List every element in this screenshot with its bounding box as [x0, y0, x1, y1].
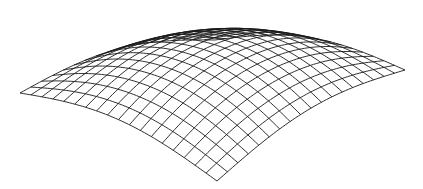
mesh-line-u — [31, 87, 228, 172]
mesh-line-u — [183, 29, 374, 80]
mesh-line-u — [139, 32, 332, 97]
wireframe-surface-figure — [0, 0, 423, 189]
surface-mesh-lines — [20, 28, 405, 181]
mesh-line-u — [42, 81, 238, 163]
mesh-line-v — [97, 29, 289, 111]
mesh-line-v — [195, 61, 384, 166]
mesh-line-v — [31, 37, 226, 95]
mesh-line-v — [162, 47, 352, 144]
mesh-line-v — [184, 56, 373, 157]
mesh-line-v — [206, 65, 394, 173]
mesh-line-v — [217, 70, 405, 181]
